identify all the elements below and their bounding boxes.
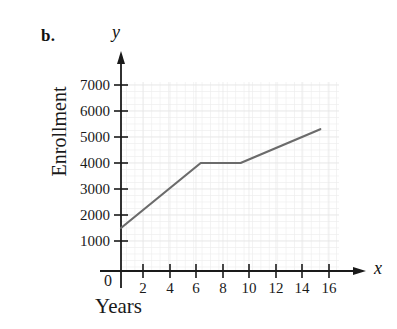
y-tick-label: 1000: [80, 233, 110, 249]
y-tick-label: 6000: [80, 103, 110, 119]
y-tick-label: 3000: [80, 181, 110, 197]
y-tick-label: 5000: [80, 129, 110, 145]
y-tick-label: 2000: [80, 207, 110, 223]
x-tick-label: 12: [269, 280, 284, 296]
x-tick-label: 16: [322, 280, 338, 296]
y-tick-label: 7000: [80, 77, 110, 93]
x-tick-label: 2: [139, 280, 147, 296]
x-axis-arrowhead: [353, 267, 366, 275]
y-tick-label: 4000: [80, 155, 110, 171]
line-chart-plot: 7000 6000 5000 4000 3000 2000 1000 2 4 6…: [0, 0, 397, 329]
plot-grid: [121, 82, 339, 270]
x-tick-label: 4: [166, 280, 174, 296]
y-axis-arrowhead: [117, 51, 125, 64]
figure-panel: b. Enrollment Years y x 0: [0, 0, 397, 329]
x-tick-label: 6: [192, 280, 200, 296]
x-tick-label: 10: [242, 280, 257, 296]
x-tick-label: 8: [219, 280, 227, 296]
x-tick-label: 14: [295, 280, 311, 296]
